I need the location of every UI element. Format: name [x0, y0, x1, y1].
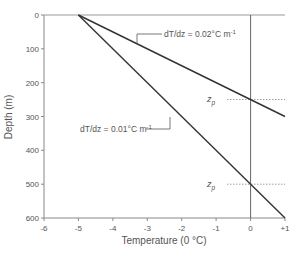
y-tick-label: 100 — [26, 45, 40, 54]
x-tick-label: -5 — [75, 224, 83, 233]
y-ticks: 0 100 200 300 400 500 600 — [26, 11, 44, 223]
y-tick-label: 200 — [26, 79, 40, 88]
x-tick-label: +1 — [280, 224, 290, 233]
x-tick-label: 0 — [248, 224, 253, 233]
y-tick-label: 0 — [35, 11, 40, 20]
x-tick-label: -4 — [109, 224, 117, 233]
x-tick-label: -3 — [144, 224, 152, 233]
x-axis-title: Temperature (0 °C) — [121, 235, 206, 246]
zp-label-lower: zp — [206, 179, 216, 192]
x-ticks: -6 -5 -4 -3 -2 -1 0 +1 — [40, 218, 290, 233]
gradient-label-lower: dT/dz = 0.01°C m-1 — [80, 124, 152, 134]
gradient-label-upper: dT/dz = 0.02°C m-1 — [164, 29, 236, 39]
y-tick-label: 300 — [26, 113, 40, 122]
y-tick-label: 500 — [26, 180, 40, 189]
x-tick-label: -1 — [213, 224, 221, 233]
y-tick-label: 600 — [26, 214, 40, 223]
leader-line-upper — [137, 34, 162, 44]
y-axis-title: Depth (m) — [3, 95, 14, 139]
x-tick-label: -6 — [40, 224, 48, 233]
x-tick-label: -2 — [178, 224, 186, 233]
y-tick-label: 400 — [26, 146, 40, 155]
chart-container: 0 100 200 300 400 500 600 -6 -5 -4 -3 -2… — [0, 0, 305, 259]
series-line-gradient-0.01 — [78, 15, 285, 218]
depth-temperature-chart: 0 100 200 300 400 500 600 -6 -5 -4 -3 -2… — [0, 0, 305, 259]
zp-label-upper: zp — [206, 94, 216, 107]
